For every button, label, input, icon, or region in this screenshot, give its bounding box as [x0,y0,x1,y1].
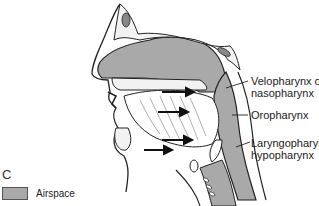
label-oropharynx: Oropharynx [251,109,308,121]
hyoid-bone [190,160,198,172]
label-velopharynx: Velopharynx or nasopharynx [251,75,319,99]
label-laryngopharynx: Laryngopharynx or hypopharynx [251,137,319,161]
label-laryngopharynx-line1: Laryngopharynx or [251,137,319,149]
hard-palate [112,78,207,90]
label-velopharynx-line1: Velopharynx or [251,75,319,87]
label-oropharynx-line1: Oropharynx [251,109,308,121]
pharynx-anatomy-diagram [0,0,319,206]
neck-outline [176,170,200,206]
mandible [115,128,131,150]
label-laryngopharynx-line2: hypopharynx [251,149,319,161]
panel-letter: C [2,167,11,182]
legend-label-airspace: Airspace [36,188,75,199]
label-velopharynx-line2: nasopharynx [251,87,319,99]
legend: Airspace [2,187,75,200]
frontal-sinus [122,13,130,27]
legend-swatch-airspace [2,187,28,200]
